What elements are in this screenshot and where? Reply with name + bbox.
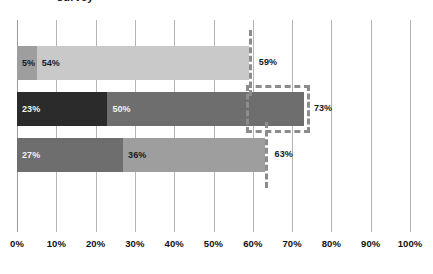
- gridline-100: [410, 20, 411, 232]
- x-tick-label: 70%: [282, 238, 301, 249]
- gridline-80: [331, 20, 332, 232]
- bar-segment-label: 36%: [123, 150, 146, 160]
- x-tick-label: 0%: [10, 238, 24, 249]
- bar-segment[interactable]: 27%: [17, 138, 123, 172]
- x-tick-label: 10%: [47, 238, 66, 249]
- x-tick-label: 50%: [204, 238, 223, 249]
- bar-segment-label: 23%: [17, 104, 40, 114]
- x-axis-tick-labels: 0%10%20%30%40%50%60%70%80%90%100%: [0, 238, 433, 258]
- bar-row[interactable]: 27%36%: [17, 138, 265, 172]
- target-marker-box: [246, 85, 310, 133]
- x-tick-label: 90%: [361, 238, 380, 249]
- bar-segment-label: 54%: [37, 58, 60, 68]
- plot-area: 5%54%23%50%27%36% 59%73%63%: [17, 20, 410, 232]
- x-tick-label: 100%: [398, 238, 423, 249]
- x-tick-label: 30%: [125, 238, 144, 249]
- target-marker-line: [265, 122, 268, 188]
- bar-segment-label: 50%: [107, 104, 130, 114]
- bar-segment[interactable]: 54%: [37, 46, 249, 80]
- x-tick-label: 20%: [86, 238, 105, 249]
- bar-segment[interactable]: 23%: [17, 92, 107, 126]
- bar-segment-label: 27%: [17, 150, 40, 160]
- bar-segment[interactable]: 5%: [17, 46, 37, 80]
- gridline-90: [371, 20, 372, 232]
- bar-total-label: 63%: [275, 149, 293, 159]
- x-tick-label: 40%: [165, 238, 184, 249]
- x-tick-label: 60%: [243, 238, 262, 249]
- bar-segment-label: 5%: [17, 58, 35, 68]
- bar-segment[interactable]: 36%: [123, 138, 264, 172]
- bar-total-label: 73%: [314, 103, 332, 113]
- x-tick-label: 80%: [322, 238, 341, 249]
- bar-total-label: 59%: [259, 57, 277, 67]
- bar-row[interactable]: 5%54%: [17, 46, 249, 80]
- stacked-bar-chart: 5%54%23%50%27%36% 59%73%63% 0%10%20%30%4…: [0, 0, 433, 274]
